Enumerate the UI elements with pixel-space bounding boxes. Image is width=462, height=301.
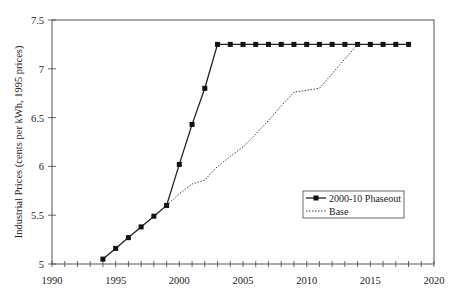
data-point-marker	[279, 42, 284, 47]
data-point-marker	[342, 42, 347, 47]
data-point-marker	[266, 42, 271, 47]
data-point-marker	[291, 42, 296, 47]
y-tick-label: 5	[39, 259, 44, 270]
x-tick-label: 2000	[169, 275, 190, 286]
line-chart: 199019952000200520102015202055.566.577.5…	[0, 0, 462, 301]
data-point-marker	[126, 235, 131, 240]
legend-label-base: Base	[329, 206, 349, 217]
data-point-marker	[228, 42, 233, 47]
plot-frame	[52, 20, 434, 264]
data-point-marker	[177, 162, 182, 167]
y-axis-label: Industrial Prices (cents per kWh, 1995 p…	[13, 45, 25, 238]
data-point-marker	[304, 42, 309, 47]
x-tick-label: 1995	[105, 275, 126, 286]
legend-label-phaseout: 2000-10 Phaseout	[329, 193, 401, 204]
series-layer	[100, 42, 411, 262]
x-tick-label: 1990	[42, 275, 63, 286]
data-point-marker	[330, 42, 335, 47]
data-point-marker	[113, 246, 118, 251]
data-point-marker	[100, 257, 105, 262]
data-point-marker	[317, 42, 322, 47]
data-point-marker	[253, 42, 258, 47]
y-tick-label: 7.5	[31, 15, 44, 26]
data-point-marker	[215, 42, 220, 47]
series-line-phaseout	[103, 44, 409, 259]
y-tick-label: 7	[39, 64, 44, 75]
x-tick-label: 2005	[233, 275, 254, 286]
x-tick-label: 2010	[296, 275, 317, 286]
data-point-marker	[164, 203, 169, 208]
data-point-marker	[190, 122, 195, 127]
y-tick-label: 6	[39, 161, 44, 172]
data-point-marker	[202, 86, 207, 91]
data-point-marker	[381, 42, 386, 47]
x-tick-label: 2015	[360, 275, 381, 286]
data-point-marker	[241, 42, 246, 47]
data-point-marker	[406, 42, 411, 47]
legend: 2000-10 Phaseout Base	[303, 191, 404, 218]
data-point-marker	[139, 224, 144, 229]
series-line-base	[167, 44, 358, 205]
data-point-marker	[393, 42, 398, 47]
y-tick-label: 5.5	[31, 210, 44, 221]
legend-marker-phaseout	[314, 196, 319, 201]
data-point-marker	[151, 214, 156, 219]
x-tick-label: 2020	[424, 275, 445, 286]
data-point-marker	[368, 42, 373, 47]
y-tick-label: 6.5	[31, 113, 44, 124]
